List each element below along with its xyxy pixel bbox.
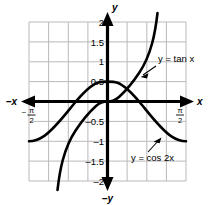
x-tick-left-denominator: 2: [29, 116, 33, 125]
x-tick-left-numerator: π: [29, 106, 34, 115]
y-axis-positive-label: y: [111, 2, 118, 13]
y-tick-1: 1: [99, 56, 104, 67]
y-tick-neg0p5: –0.5: [86, 116, 105, 127]
x-axis-positive-label: x: [196, 96, 203, 107]
y-axis-negative-label: –y: [102, 193, 114, 204]
y-tick-neg1p5: –1.5: [86, 156, 105, 167]
x-axis-negative-label: –x: [6, 96, 18, 107]
y-tick-1p5: 1.5: [91, 37, 104, 48]
y-tick-neg1: –1: [93, 136, 104, 147]
x-tick-right-numerator: π: [177, 106, 182, 115]
y-tick-2: 2: [99, 17, 104, 28]
trig-graph-figure: 2 1.5 1 0.5 –0.5 –1 –1.5 –2 x –x y –y – …: [0, 0, 214, 205]
y-tick-neg2: –2: [93, 176, 104, 187]
graph-canvas: 2 1.5 1 0.5 –0.5 –1 –1.5 –2 x –x y –y – …: [0, 0, 214, 205]
tan-curve-label: y = tan x: [158, 53, 194, 64]
cos-curve-label: y = cos 2x: [131, 152, 174, 163]
x-tick-right-denominator: 2: [178, 116, 182, 125]
y-tick-0p5: 0.5: [91, 76, 104, 87]
